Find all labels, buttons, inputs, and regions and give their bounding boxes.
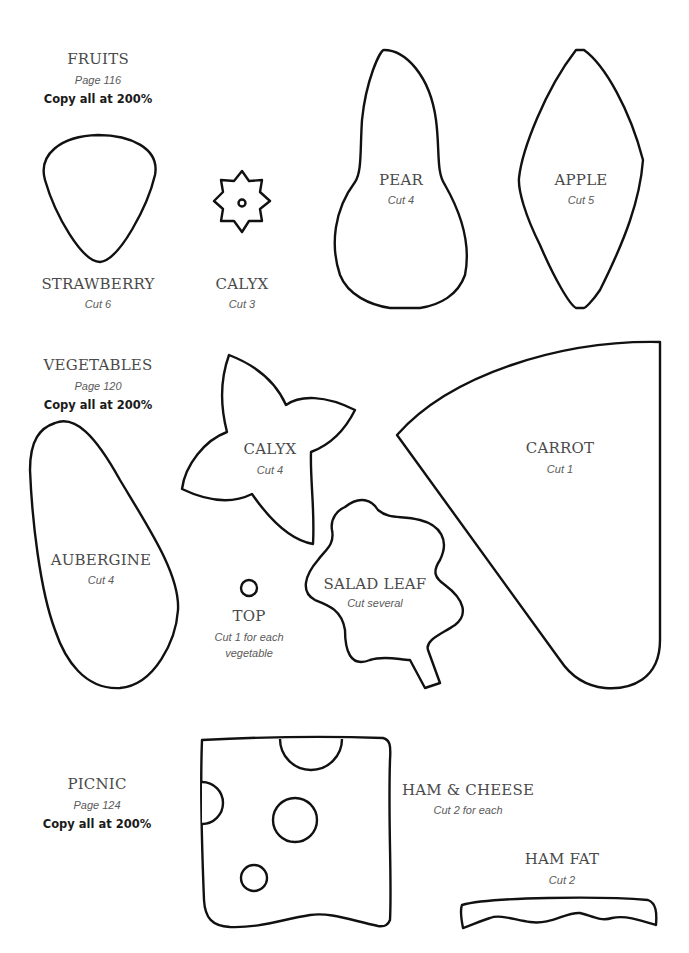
fruits-section-title: FRUITS <box>67 50 129 68</box>
fruit-calyx-cut-count: Cut 3 <box>229 297 255 312</box>
salad-leaf-shape <box>306 500 463 688</box>
ham-fat-label: HAM FAT <box>525 850 600 868</box>
salad-leaf-cut-count: Cut several <box>347 596 403 611</box>
veg-calyx-cut-count: Cut 4 <box>257 463 283 478</box>
top-cut-line2: vegetable <box>225 646 273 661</box>
pear-cut-count: Cut 4 <box>388 193 414 208</box>
fruit-calyx-label: CALYX <box>216 275 269 293</box>
template-sheet: FRUITS Page 116 Copy all at 200% STRAWBE… <box>0 0 689 953</box>
picnic-copy-instruction: Copy all at 200% <box>43 817 152 831</box>
apple-cut-count: Cut 5 <box>568 193 594 208</box>
strawberry-shape <box>44 135 156 262</box>
vegetables-page-ref: Page 120 <box>74 379 121 394</box>
veg-calyx-label: CALYX <box>244 440 297 458</box>
top-cut-line1: Cut 1 for each <box>214 630 283 645</box>
ham-fat-shape <box>461 898 656 928</box>
aubergine-cut-count: Cut 4 <box>88 573 114 588</box>
top-label: TOP <box>233 607 266 625</box>
apple-label: APPLE <box>555 171 608 189</box>
fruits-copy-instruction: Copy all at 200% <box>44 92 153 106</box>
vegetables-section-title: VEGETABLES <box>44 356 153 374</box>
ham-fat-cut-count: Cut 2 <box>549 873 575 888</box>
top-circle-shape <box>241 580 257 596</box>
cheese-hole-bottom <box>241 865 267 891</box>
fruit-calyx-hole <box>239 200 246 207</box>
fruits-page-ref: Page 116 <box>75 73 121 88</box>
picnic-section-title: PICNIC <box>67 775 126 793</box>
cheese-hole-middle <box>273 798 317 842</box>
carrot-cut-count: Cut 1 <box>547 462 573 477</box>
pear-label: PEAR <box>379 171 423 189</box>
ham-cheese-cut-count: Cut 2 for each <box>433 803 502 818</box>
vegetables-copy-instruction: Copy all at 200% <box>44 398 153 412</box>
aubergine-label: AUBERGINE <box>51 551 152 569</box>
salad-leaf-label: SALAD LEAF <box>324 575 427 593</box>
strawberry-label: STRAWBERRY <box>41 275 154 293</box>
carrot-label: CARROT <box>526 439 594 457</box>
picnic-page-ref: Page 124 <box>73 798 120 813</box>
strawberry-cut-count: Cut 6 <box>85 297 111 312</box>
ham-cheese-label: HAM & CHEESE <box>402 781 534 799</box>
